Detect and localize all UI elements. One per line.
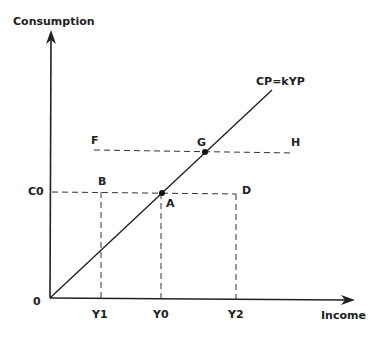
y-axis-label: Consumption <box>13 16 95 27</box>
fh-dashed-line <box>94 150 294 153</box>
origin-label: 0 <box>33 296 41 307</box>
point-h-label: H <box>291 137 300 148</box>
point-f-label: F <box>91 135 99 146</box>
x-axis-label: Income <box>321 310 366 321</box>
tick-label-y2: Y2 <box>228 309 244 320</box>
point-g-dot <box>202 149 208 155</box>
diagram-canvas <box>0 0 381 338</box>
point-b-label: B <box>98 176 106 187</box>
point-a-label: A <box>166 198 175 209</box>
point-g-label: G <box>197 137 206 148</box>
line-label: CP=kYP <box>256 76 305 87</box>
x-axis <box>50 298 345 300</box>
tick-label-c0: C0 <box>28 186 44 197</box>
c0-dashed-line <box>52 192 236 194</box>
point-a-dot <box>159 190 165 196</box>
point-d-label: D <box>242 185 251 196</box>
y-axis <box>50 40 51 298</box>
tick-label-y1: Y1 <box>92 309 108 320</box>
tick-label-y0: Y0 <box>153 309 169 320</box>
consumption-income-diagram: Consumption Income 0 CP=kYP C0 Y1 Y0 Y2 … <box>0 0 381 338</box>
